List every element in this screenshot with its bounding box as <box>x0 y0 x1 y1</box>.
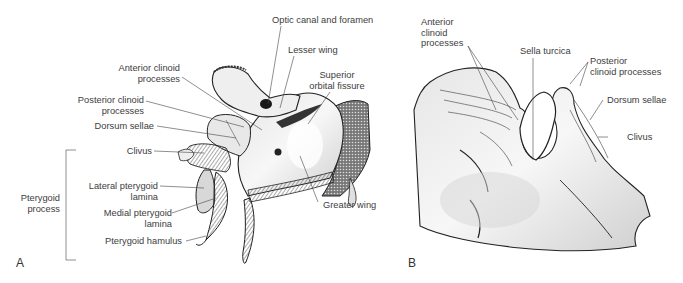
label-line: processes <box>64 106 144 117</box>
label-line: processes <box>421 38 463 49</box>
label-dorsum-sellae-b: Dorsum sellae <box>607 95 666 106</box>
label-line: Lateral pterygoid <box>78 181 158 192</box>
label-medial-pterygoid-lamina: Medial pterygoid lamina <box>90 208 172 229</box>
panel-letter-a: A <box>16 256 24 270</box>
label-line: lamina <box>90 219 172 230</box>
label-line: Anterior <box>421 17 463 28</box>
label-posterior-clinoid-a: Posterior clinoid processes <box>64 95 144 116</box>
label-optic-canal: Optic canal and foramen <box>272 15 373 26</box>
label-line: Medial pterygoid <box>90 208 172 219</box>
label-superior-orbital-fissure: Superior orbital fissure <box>307 70 367 91</box>
label-line: Posterior clinoid <box>64 95 144 106</box>
label-posterior-clinoid-b: Posterior clinoid processes <box>590 56 661 77</box>
label-line: orbital fissure <box>307 81 367 92</box>
label-line: Posterior <box>590 56 661 67</box>
label-line: Superior <box>307 70 367 81</box>
label-pterygoid-process: Pterygoid process <box>10 193 60 214</box>
label-line: process <box>10 204 60 215</box>
label-lateral-pterygoid-lamina: Lateral pterygoid lamina <box>78 181 158 202</box>
panel-letter-b: B <box>408 256 416 270</box>
label-line: Anterior clinoid <box>100 63 180 74</box>
sphenoid-bone-drawing <box>178 66 370 263</box>
label-dorsum-sellae-a: Dorsum sellae <box>80 121 154 132</box>
label-line: processes <box>100 74 180 85</box>
label-clivus-a: Clivus <box>110 146 152 157</box>
label-sella-turcica: Sella turcica <box>520 46 571 57</box>
label-line: lamina <box>78 192 158 203</box>
label-clivus-b: Clivus <box>627 132 652 143</box>
label-line: Pterygoid <box>10 193 60 204</box>
label-line: clinoid processes <box>590 67 661 78</box>
label-anterior-clinoid-a: Anterior clinoid processes <box>100 63 180 84</box>
label-greater-wing: Greater wing <box>323 200 376 211</box>
label-anterior-clinoid-b: Anterior clinoid processes <box>421 17 463 49</box>
label-pterygoid-hamulus: Pterygoid hamulus <box>96 236 182 247</box>
label-line: clinoid <box>421 28 463 39</box>
label-lesser-wing: Lesser wing <box>288 45 338 56</box>
